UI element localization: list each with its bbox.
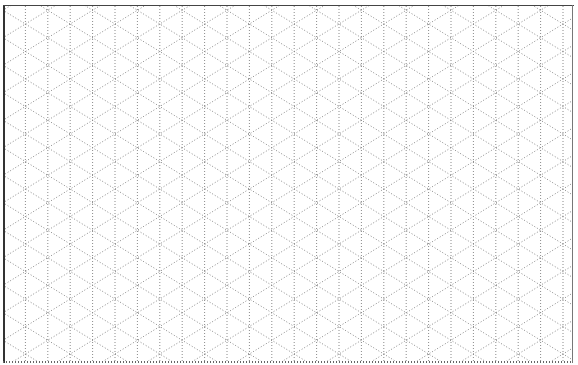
frame-bottom-border (3, 361, 573, 363)
frame-top-border (3, 5, 574, 6)
frame-left-border (3, 5, 5, 363)
frame-right-border (572, 5, 573, 363)
isometric-grid-sheet (0, 0, 578, 365)
isometric-grid (0, 0, 578, 365)
